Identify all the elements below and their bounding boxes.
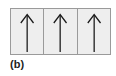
spin-cell-strip <box>10 8 111 55</box>
up-arrow-icon <box>78 9 110 54</box>
cell-2 <box>44 9 77 54</box>
up-arrow-icon <box>11 9 43 54</box>
figure-b: (b) <box>0 0 116 76</box>
figure-label: (b) <box>10 58 24 70</box>
up-arrow-icon <box>44 9 76 54</box>
cell-1 <box>11 9 44 54</box>
cell-3 <box>78 9 110 54</box>
